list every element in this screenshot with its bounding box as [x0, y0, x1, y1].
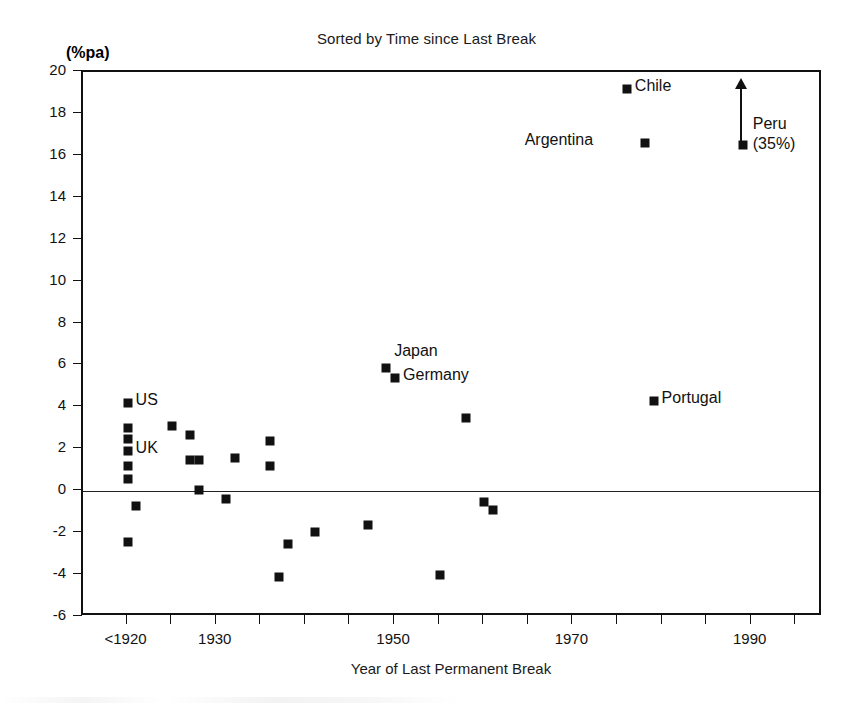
scatter-point: [382, 363, 391, 372]
x-tick-mark: [393, 615, 394, 624]
x-tick-mark: [616, 615, 617, 624]
scatter-point: [266, 462, 275, 471]
x-tick-mark: [170, 615, 171, 624]
y-tick-label: 14: [22, 187, 66, 204]
scatter-point: [230, 453, 239, 462]
scatter-point: [462, 413, 471, 422]
scatter-point: [168, 422, 177, 431]
x-tick-label: 1970: [526, 630, 616, 647]
plot-area: [81, 70, 821, 615]
y-tick-label: 20: [22, 61, 66, 78]
chart-title: Sorted by Time since Last Break: [0, 30, 853, 47]
point-label-peru-value: (35%): [753, 135, 796, 153]
x-axis-title: Year of Last Permanent Break: [81, 660, 821, 677]
x-tick-mark: [661, 615, 662, 624]
scatter-point: [435, 571, 444, 580]
x-tick-mark: [126, 615, 127, 624]
scatter-point: [185, 455, 194, 464]
scatter-point: [123, 462, 132, 471]
x-tick-mark: [259, 615, 260, 624]
x-tick-label: <1920: [81, 630, 171, 647]
point-label-chile: Chile: [635, 77, 671, 95]
y-tick-label: 16: [22, 145, 66, 162]
zero-reference-line: [83, 491, 819, 492]
scatter-point: [123, 447, 132, 456]
y-tick-label: -6: [22, 606, 66, 623]
point-label-argentina: Argentina: [525, 131, 594, 149]
scatter-point: [489, 506, 498, 515]
y-tick-mark: [73, 615, 82, 616]
x-tick-mark: [571, 615, 572, 624]
y-tick-label: 6: [22, 354, 66, 371]
scatter-point: [123, 399, 132, 408]
scatter-point: [364, 520, 373, 529]
point-label-portugal: Portugal: [662, 389, 722, 407]
y-tick-label: 0: [22, 480, 66, 497]
x-tick-mark: [348, 615, 349, 624]
scatter-point: [185, 430, 194, 439]
chart-figure: Sorted by Time since Last Break (%pa) 20…: [0, 0, 853, 708]
arrow-shaft: [740, 86, 742, 148]
y-tick-label: -4: [22, 564, 66, 581]
y-tick-label: 8: [22, 313, 66, 330]
scatter-point: [123, 474, 132, 483]
point-label-uk: UK: [136, 439, 158, 457]
scatter-point: [123, 434, 132, 443]
x-tick-label: 1950: [348, 630, 438, 647]
y-tick-label: 12: [22, 229, 66, 246]
y-tick-label: 2: [22, 438, 66, 455]
x-tick-mark: [750, 615, 751, 624]
x-tick-label: 1930: [170, 630, 260, 647]
y-axis-unit-label: (%pa): [66, 44, 110, 62]
scatter-point: [132, 501, 141, 510]
point-label-japan: Japan: [394, 342, 438, 360]
point-label-germany: Germany: [403, 366, 469, 384]
point-label-peru: Peru(35%): [753, 115, 796, 153]
scatter-point: [123, 424, 132, 433]
scatter-point: [194, 455, 203, 464]
scatter-point: [221, 494, 230, 503]
scatter-point: [275, 573, 284, 582]
scatter-point: [284, 539, 293, 548]
peru-offscale-arrow-icon: [734, 78, 748, 148]
x-tick-mark: [482, 615, 483, 624]
x-tick-mark: [705, 615, 706, 624]
x-tick-mark: [215, 615, 216, 624]
x-tick-mark: [438, 615, 439, 624]
scatter-point: [266, 436, 275, 445]
y-tick-label: 10: [22, 271, 66, 288]
scan-artifact: [0, 697, 460, 703]
y-tick-label: -2: [22, 522, 66, 539]
y-tick-label: 18: [22, 103, 66, 120]
scatter-point: [391, 374, 400, 383]
x-tick-mark: [794, 615, 795, 624]
x-tick-label: 1990: [705, 630, 795, 647]
scatter-point: [123, 537, 132, 546]
y-tick-label: 4: [22, 396, 66, 413]
scatter-point: [640, 139, 649, 148]
scatter-point: [480, 497, 489, 506]
x-tick-mark: [527, 615, 528, 624]
scatter-point: [649, 397, 658, 406]
point-label-peru: Peru: [753, 115, 796, 133]
scatter-point: [194, 486, 203, 495]
x-tick-mark: [304, 615, 305, 624]
point-label-us: US: [136, 391, 158, 409]
scatter-point: [310, 528, 319, 537]
scatter-point: [622, 84, 631, 93]
